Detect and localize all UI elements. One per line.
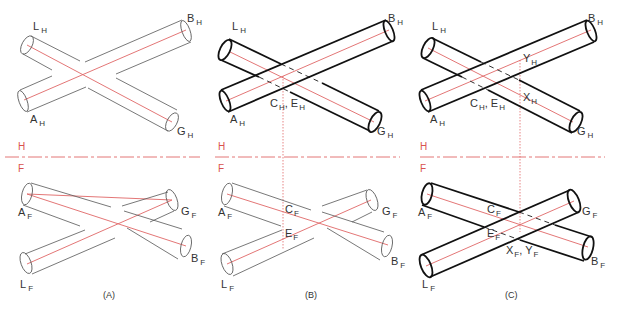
label-b-h-a: BH bbox=[187, 12, 202, 27]
panel-b-front-view: AF CF EF GF LF BF bbox=[218, 182, 405, 293]
fold-label-h-b: H bbox=[218, 141, 225, 152]
label-a-h-b: AH bbox=[230, 113, 245, 128]
diagram-svg: H F H F H F LH bbox=[0, 0, 618, 317]
label-x-h-c: XH bbox=[523, 91, 537, 106]
fold-label-f-a: F bbox=[18, 163, 24, 174]
label-e-f-b: EF bbox=[285, 227, 298, 242]
label-g-f-a: GF bbox=[181, 205, 197, 220]
label-ce-h-b: CH, EH bbox=[270, 97, 305, 112]
panel-b-top-view: LH BH AH GH CH, EH bbox=[216, 12, 404, 250]
label-g-h-c: GH bbox=[577, 125, 594, 140]
fold-label-f-b: F bbox=[218, 163, 224, 174]
label-b-f-c: BF bbox=[591, 255, 605, 270]
label-l-h-b: LH bbox=[232, 20, 246, 35]
label-l-h-c: LH bbox=[432, 20, 446, 35]
label-xy-f-c: XF, YF bbox=[506, 244, 539, 259]
label-a-h-c: AH bbox=[430, 113, 445, 128]
label-g-f-c: GF bbox=[582, 205, 598, 220]
label-l-f-a: LF bbox=[20, 278, 33, 293]
label-b-h-c: BH bbox=[588, 12, 603, 27]
label-l-f-b: LF bbox=[221, 278, 234, 293]
label-g-h-a: GH bbox=[177, 125, 194, 140]
panel-a: LH BH AH GH AF GF LF BF (A) bbox=[15, 12, 205, 300]
label-b-f-a: BF bbox=[191, 252, 205, 267]
caption-b: (B) bbox=[305, 290, 317, 300]
panel-c: LH BH AH GH CH, EH YH XH AF CF bbox=[417, 12, 605, 300]
label-b-f-b: BF bbox=[391, 255, 405, 270]
label-l-h-a: LH bbox=[33, 20, 47, 35]
label-g-h-b: GH bbox=[377, 125, 394, 140]
panel-a-top-view: LH BH AH GH bbox=[15, 12, 202, 140]
label-e-f-c: EF bbox=[487, 227, 500, 242]
label-l-f-c: LF bbox=[422, 278, 435, 293]
caption-a: (A) bbox=[103, 290, 115, 300]
fold-label-f-c: F bbox=[420, 163, 426, 174]
fold-label-h-a: H bbox=[18, 141, 25, 152]
caption-c: (C) bbox=[505, 290, 518, 300]
fold-line-group: H F H F H F bbox=[5, 141, 605, 174]
label-g-f-b: GF bbox=[382, 205, 398, 220]
panel-c-top-view: LH BH AH GH CH, EH YH XH bbox=[417, 12, 603, 232]
panel-c-front-view: AF CF EF GF LF BF XF, YF bbox=[417, 182, 605, 293]
fold-label-h-c: H bbox=[420, 141, 427, 152]
panel-a-front-view: AF GF LF BF bbox=[18, 182, 206, 293]
label-a-f-a: AF bbox=[18, 206, 32, 221]
orthographic-projection-figure: H F H F H F LH bbox=[0, 0, 618, 317]
label-a-h-a: AH bbox=[30, 113, 45, 128]
label-ce-h-c: CH, EH bbox=[470, 97, 505, 112]
panel-b: LH BH AH GH CH, EH AF CF EF GF LF bbox=[216, 12, 406, 300]
